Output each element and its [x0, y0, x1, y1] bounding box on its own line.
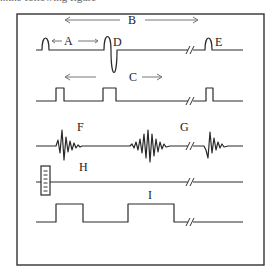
row5-wide-pulses	[36, 204, 243, 222]
label-i: I	[148, 188, 152, 202]
label-g: G	[180, 120, 189, 134]
label-d: D	[113, 35, 122, 49]
label-c: C	[129, 70, 137, 84]
waveform-diagram: B A D E C F G	[0, 0, 272, 275]
label-b: B	[128, 13, 136, 27]
row2-pulse-train	[36, 88, 243, 101]
label-a: A	[64, 34, 73, 48]
row3-burst-waveform	[36, 130, 243, 162]
marker-box-h	[41, 166, 50, 195]
label-h: H	[79, 160, 88, 174]
interval-a-arrow	[52, 39, 98, 43]
interval-c-arrow	[65, 74, 162, 80]
label-e: E	[215, 35, 222, 49]
label-f: F	[77, 120, 84, 134]
